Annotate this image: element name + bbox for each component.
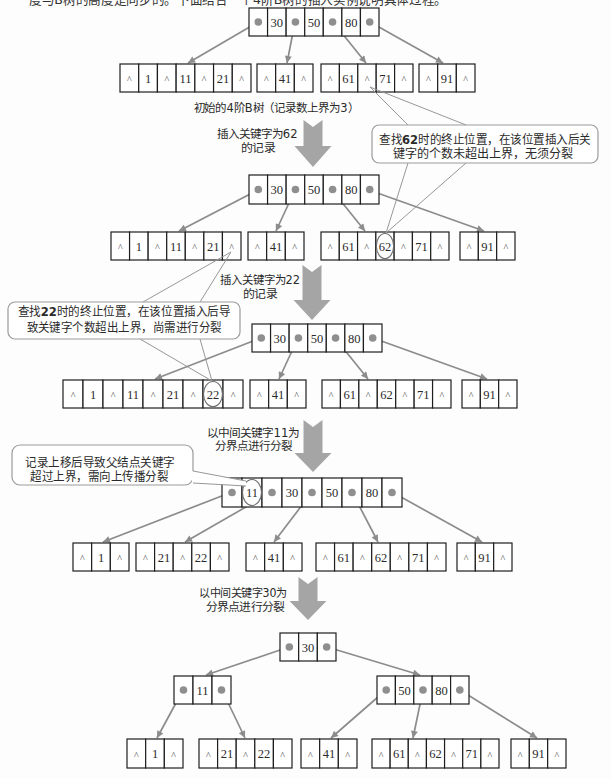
null-pointer-caret: ^	[231, 390, 236, 401]
btree-root-node: 30	[280, 633, 336, 661]
btree-leaf-node: ^91^	[457, 543, 512, 571]
tree-nodes-layer: 305080^1^11^21^^41^^61^71^^91^305080^1^1…	[63, 8, 566, 768]
callout-line1: 查找22时的终止位置，在该位置插入后导	[18, 304, 231, 319]
initial-tree-caption: 初始的4阶B树（记录数上界为3）	[194, 101, 359, 115]
pointer-dot-icon	[292, 186, 300, 194]
btree-leaf-node: ^41^	[248, 232, 304, 260]
down-arrow-icon	[290, 577, 327, 620]
key-value: 80	[345, 16, 358, 30]
pointer-dot-icon	[292, 18, 300, 26]
transition-label-line2: 分界点进行分裂	[215, 439, 293, 453]
pointer-dot-icon	[308, 489, 316, 497]
null-pointer-caret: ^	[488, 750, 493, 761]
key-value: 41	[323, 747, 336, 761]
transition-3: 以中间关键字11为 分界点进行分裂	[207, 420, 332, 472]
key-value: 62	[379, 240, 392, 254]
null-pointer-caret: ^	[518, 750, 523, 761]
null-pointer-caret: ^	[180, 553, 185, 564]
callout-line1: 记录上移后导致父结点关键字	[25, 455, 175, 470]
null-pointer-caret: ^	[439, 390, 444, 401]
key-value: 22	[258, 747, 271, 761]
null-pointer-caret: ^	[301, 74, 306, 85]
down-arrow-icon	[295, 420, 332, 472]
btree-leaf-node: ^61^62^71^	[322, 380, 451, 408]
pointer-edge	[369, 190, 484, 231]
key-value: 41	[272, 388, 285, 402]
stage-2-tree: 305080^1^11^21^^41^^61^62^71^^91^	[111, 175, 515, 260]
null-pointer-caret: ^	[323, 553, 328, 564]
key-value: 30	[286, 486, 299, 500]
null-pointer-caret: ^	[438, 242, 443, 253]
key-value: 80	[345, 183, 358, 197]
pointer-dot-icon	[366, 18, 374, 26]
null-pointer-caret: ^	[239, 74, 244, 85]
null-pointer-caret: ^	[500, 553, 505, 564]
transition-label-line2: 的记录	[241, 141, 275, 155]
pointer-dot-icon	[329, 186, 337, 194]
null-pointer-caret: ^	[280, 750, 285, 761]
null-pointer-caret: ^	[202, 74, 207, 85]
null-pointer-caret: ^	[403, 390, 408, 401]
null-pointer-caret: ^	[464, 553, 469, 564]
btree-leaf-node: ^91^	[462, 380, 517, 408]
key-value: 11	[179, 72, 191, 86]
btree-leaf-node: ^91^	[460, 232, 515, 260]
pointer-dot-icon	[366, 186, 374, 194]
key-value: 71	[466, 747, 479, 761]
null-pointer-caret: ^	[151, 390, 156, 401]
callout-leader	[370, 87, 466, 125]
key-value: 41	[268, 551, 281, 565]
pointer-edge	[392, 492, 482, 542]
null-pointer-caret: ^	[366, 390, 371, 401]
null-pointer-caret: ^	[365, 74, 370, 85]
pointer-dot-icon	[180, 686, 188, 694]
null-pointer-caret: ^	[345, 750, 350, 761]
null-pointer-caret: ^	[229, 242, 234, 253]
cropped-header-text: 度与B树的高度是同步的。下面结合一个4阶B树的插入实例说明具体过程。	[29, 0, 447, 7]
key-value: 11	[127, 388, 139, 402]
null-pointer-caret: ^	[192, 242, 197, 253]
transition-label-line1: 以中间关键字11为	[207, 426, 300, 440]
key-value: 1	[90, 388, 96, 402]
pointer-edge	[327, 647, 420, 675]
key-value: 80	[366, 486, 379, 500]
key-value: 80	[435, 684, 448, 698]
callout-line2: 超过上界，需向上传播分裂	[30, 469, 168, 484]
key-value: 11	[246, 486, 258, 500]
key-value: 50	[308, 183, 321, 197]
pointer-dot-icon	[286, 643, 294, 651]
btree-root-node: 305080	[249, 175, 379, 204]
key-value: 22	[195, 551, 208, 565]
btree-leaf-node: ^1^11^21^	[120, 64, 251, 92]
null-pointer-caret: ^	[264, 74, 269, 85]
null-pointer-caret: ^	[127, 74, 132, 85]
transition-label-line2: 的记录	[243, 287, 277, 301]
key-value: 62	[375, 551, 388, 565]
key-value: 91	[532, 747, 545, 761]
callout-leader	[370, 87, 408, 125]
btree-leaf-node: ^1^11^21^22^	[63, 380, 243, 408]
stage-1-tree: 305080^1^11^21^^41^^61^71^^91^	[120, 8, 475, 92]
null-pointer-caret: ^	[451, 750, 456, 761]
pointer-dot-icon	[254, 18, 262, 26]
null-pointer-caret: ^	[143, 553, 148, 564]
key-value: 22	[207, 388, 220, 402]
callout-insert-22: 查找22时的终止位置，在该位置插入后导 致关键字个数超出上界，尚需进行分裂	[8, 302, 240, 339]
pointer-dot-icon	[268, 489, 276, 497]
btree-leaf-node: ^61^62^71^	[316, 543, 446, 571]
key-value: 62	[380, 388, 393, 402]
key-value: 80	[348, 332, 361, 346]
null-pointer-caret: ^	[401, 74, 406, 85]
null-pointer-caret: ^	[469, 390, 474, 401]
key-value: 1	[98, 551, 104, 565]
btree-leaf-node: ^61^71^	[321, 64, 413, 92]
key-value: 1	[145, 72, 151, 86]
pointer-dot-icon	[348, 489, 356, 497]
pointer-dot-icon	[228, 489, 236, 497]
down-arrow-icon	[295, 120, 332, 167]
transition-1: 插入关键字为62 的记录	[217, 120, 332, 167]
btree-leaf-node: ^41^	[250, 380, 306, 408]
callout-insert-62: 查找62时的终止位置，在该位置插入后关 键字的个数未超出上界，无须分裂	[372, 125, 598, 163]
null-pointer-caret: ^	[328, 242, 333, 253]
pointer-edge	[460, 690, 537, 738]
